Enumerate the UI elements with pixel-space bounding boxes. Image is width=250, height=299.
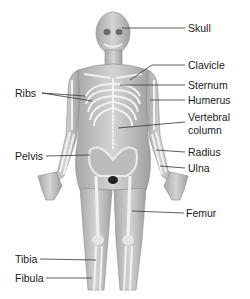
- label-skull: Skull: [188, 22, 211, 34]
- label-radius: Radius: [188, 146, 221, 158]
- label-pelvis: Pelvis: [15, 150, 43, 162]
- label-fibula: Fibula: [15, 272, 44, 284]
- label-vertebral: Vertebral: [188, 111, 230, 123]
- label-femur: Femur: [186, 207, 216, 219]
- label-clavicle: Clavicle: [188, 59, 225, 71]
- label-ulna: Ulna: [188, 162, 210, 174]
- label-humerus: Humerus: [188, 94, 231, 106]
- label-tibia: Tibia: [15, 253, 37, 265]
- label-column: column: [188, 124, 222, 136]
- label-ribs: Ribs: [15, 87, 36, 99]
- label-sternum: Sternum: [188, 79, 228, 91]
- skeleton-diagram: Skull Clavicle Sternum Humerus Vertebral…: [0, 0, 250, 299]
